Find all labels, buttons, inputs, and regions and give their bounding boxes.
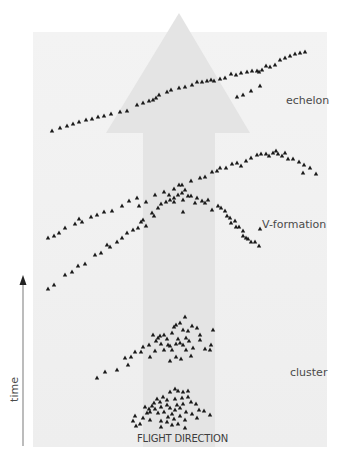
axis-arrowhead-icon bbox=[20, 275, 27, 285]
label-flight-direction: FLIGHT DIRECTION bbox=[137, 433, 228, 444]
bird-formation-diagram bbox=[0, 0, 344, 470]
time-axis bbox=[20, 275, 27, 446]
label-cluster: cluster bbox=[290, 366, 327, 379]
label-v-formation: V-formation bbox=[262, 218, 326, 231]
label-time-axis: time bbox=[8, 377, 21, 402]
label-echelon: echelon bbox=[286, 94, 329, 107]
